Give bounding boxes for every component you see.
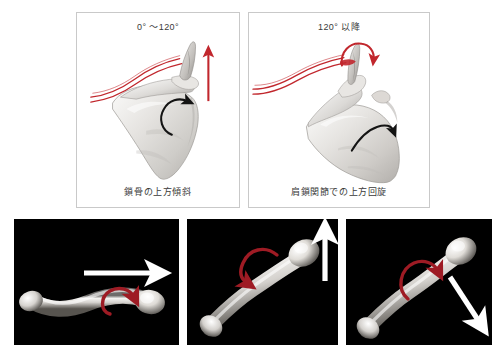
panel-early-phase: 0° 〜120° <box>76 12 240 208</box>
panel-caption-late: 肩鎖関節での上方回旋 <box>249 185 429 198</box>
photo-clavicle-horizontal <box>14 219 179 345</box>
photograph-row <box>0 219 504 345</box>
illustration-row: 0° 〜120° <box>0 0 504 211</box>
panel-late-phase: 120° 以降 <box>248 12 430 208</box>
panel-caption-early: 鎖骨の上方傾斜 <box>77 185 239 198</box>
photo-clavicle-depressed <box>346 219 492 345</box>
scapula-illustration-early <box>77 31 239 191</box>
photo-clavicle-elevated <box>187 219 338 345</box>
scapula-illustration-late <box>249 31 429 191</box>
